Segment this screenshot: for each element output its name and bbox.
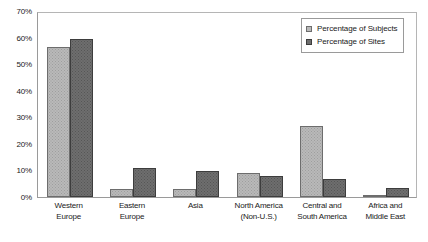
x-axis-label-line: Africa and [354, 200, 417, 211]
bar [133, 168, 156, 197]
x-axis-label: Africa andMiddle East [354, 200, 417, 222]
bar [196, 171, 219, 197]
bar [386, 188, 409, 197]
y-axis-tick: 50% [17, 61, 32, 69]
bar [70, 39, 93, 197]
x-axis-label-line: Middle East [354, 211, 417, 222]
x-axis-label: EasternEurope [100, 200, 163, 222]
bar [173, 189, 196, 197]
y-axis-tick: 70% [17, 8, 32, 16]
bar [363, 195, 386, 197]
bar [47, 47, 70, 197]
x-axis-label: North America(Non-U.S.) [227, 200, 290, 222]
bar-group [165, 13, 228, 197]
bar [323, 179, 346, 197]
y-axis-tick: 40% [17, 88, 32, 96]
bar-group [228, 13, 291, 197]
x-axis-labels: WesternEuropeEasternEuropeAsiaNorth Amer… [37, 200, 417, 242]
x-axis-label: WesternEurope [37, 200, 100, 222]
legend-item-sites: Percentage of Sites [306, 35, 398, 48]
x-axis-label-line: Europe [37, 211, 100, 222]
chart-legend: Percentage of Subjects Percentage of Sit… [301, 18, 404, 53]
legend-swatch-icon [306, 39, 312, 45]
bar [300, 126, 323, 197]
x-axis-label-line: (Non-U.S.) [227, 211, 290, 222]
x-axis-label-line: Central and [290, 200, 353, 211]
y-axis-tick: 30% [17, 114, 32, 122]
legend-item-subjects: Percentage of Subjects [306, 22, 398, 35]
legend-swatch-icon [306, 26, 312, 32]
legend-label: Percentage of Subjects [317, 25, 398, 33]
x-axis-label: Central andSouth America [290, 200, 353, 222]
y-axis-tick: 60% [17, 35, 32, 43]
bar [260, 176, 283, 197]
y-axis: 70% 60% 50% 40% 30% 20% 10% 0% [0, 0, 36, 198]
y-axis-tick: 20% [17, 141, 32, 149]
x-axis-label-line: Asia [164, 200, 227, 211]
bar [110, 189, 133, 197]
y-axis-tick: 10% [17, 167, 32, 175]
x-axis-label-line: South America [290, 211, 353, 222]
x-axis-label-line: North America [227, 200, 290, 211]
bar [237, 173, 260, 197]
x-axis-label: Asia [164, 200, 227, 211]
bar-group [101, 13, 164, 197]
bar-group [38, 13, 101, 197]
legend-label: Percentage of Sites [317, 38, 385, 46]
x-axis-label-line: Western [37, 200, 100, 211]
y-axis-tick: 0% [21, 194, 32, 202]
bar-chart: 70% 60% 50% 40% 30% 20% 10% 0% WesternEu… [0, 0, 428, 242]
x-axis-label-line: Eastern [100, 200, 163, 211]
x-axis-label-line: Europe [100, 211, 163, 222]
